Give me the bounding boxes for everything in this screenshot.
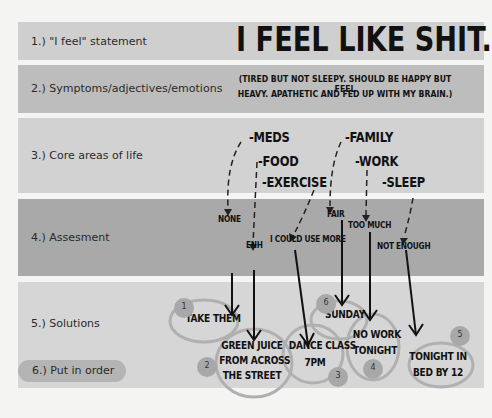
assessment-work: TOO MUCH [348,220,391,230]
order-badge-5: 5 [450,326,470,346]
i-feel-statement: I FEEL LIKE SHIT. [236,19,492,59]
core-area-sleep: -SLEEP [382,174,425,190]
core-area-family: -FAMILY [345,129,393,145]
assessment-meds: NONE [218,214,241,224]
assessment-family: FAIR [327,209,344,219]
order-badge-1: 1 [174,298,194,318]
assessment-sleep: NOT ENOUGH [377,241,430,251]
order-badge-6: 6 [316,294,336,314]
solution-bed-by-12: TONIGHT IN BED BY 12 [409,349,466,381]
core-area-food: -FOOD [258,153,298,169]
order-badge-3: 3 [328,367,348,387]
row-label: 4.) Assesment [31,231,110,244]
row-label: 2.) Symptoms/adjectives/emotions [31,82,222,95]
row-label: 3.) Core areas of life [31,149,143,162]
order-badge-4: 4 [363,359,383,379]
assessment-food: ENH [246,240,263,250]
core-area-meds: -MEDS [249,129,290,145]
solution-take-them: TAKE THEM [185,312,234,325]
row-label: 1.) "I feel" statement [31,35,147,48]
order-badge-2: 2 [197,357,217,377]
solution-no-work-tonight: NO WORK TONIGHT [353,327,397,359]
solution-green-juice: GREEN JUICE FROM ACROSS THE STREET [219,338,285,383]
put-in-order-pill: 6.) Put in order [18,360,126,382]
core-area-work: -WORK [355,153,398,169]
solution-dance-class: DANCE CLASS 7PM [289,337,341,371]
symptoms-line-2: HEAVY. APATHETIC AND FED UP WITH MY BRAI… [238,89,453,99]
row-label: 5.) Solutions [31,317,100,330]
row-assessment: 4.) Assesment [18,199,484,276]
core-area-exercise: -EXERCISE [262,174,327,190]
assessment-exercise: I COULD USE MORE [270,234,346,244]
